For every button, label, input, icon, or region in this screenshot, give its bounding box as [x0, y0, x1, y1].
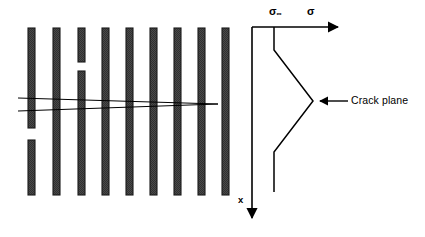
- figure-canvas: [0, 0, 425, 237]
- fiber-segment-upper: [28, 28, 35, 128]
- fiber-2: [53, 28, 60, 195]
- fiber-3-broken: [78, 28, 85, 195]
- lower-crack-face-line: [18, 104, 218, 111]
- crack-faces: [18, 98, 218, 111]
- fiber-1-broken: [28, 28, 35, 195]
- fiber-segment-lower: [78, 71, 85, 195]
- fiber-7: [174, 28, 181, 195]
- axes: [252, 27, 338, 218]
- fiber-8: [198, 28, 205, 195]
- sigma-axis-label: σ: [307, 6, 315, 17]
- fiber-9: [222, 28, 229, 195]
- fiber-array: [28, 28, 229, 195]
- stress-profile-curve: [274, 27, 313, 192]
- fiber-6: [150, 28, 157, 195]
- upper-crack-face-line: [18, 98, 218, 104]
- fiber-5: [126, 28, 133, 195]
- crack-plane-label: Crack plane: [351, 95, 408, 106]
- sigma-infinity-symbol: σ: [269, 5, 277, 17]
- infinity-subscript: ∞: [277, 10, 282, 17]
- fiber-segment-lower: [28, 140, 35, 195]
- fiber-4: [102, 28, 109, 195]
- fiber-segment-upper: [78, 28, 85, 62]
- x-axis-label: x: [238, 195, 243, 205]
- figure-root: σ∞ σ x Crack plane: [0, 0, 425, 237]
- sigma-infinity-label: σ∞: [269, 6, 281, 17]
